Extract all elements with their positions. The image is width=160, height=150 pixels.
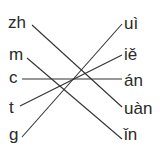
line-g-ui bbox=[22, 24, 122, 137]
left-label-zh: zh bbox=[8, 14, 26, 31]
left-label-t: t bbox=[9, 99, 14, 116]
right-label-in: ǐn bbox=[124, 126, 137, 143]
line-m-in bbox=[27, 58, 122, 139]
right-label-ui: uì bbox=[124, 15, 138, 32]
right-label-ie: iě bbox=[124, 46, 137, 63]
right-label-uan: uàn bbox=[124, 100, 152, 117]
line-t-ie bbox=[20, 55, 122, 106]
left-label-c: c bbox=[9, 69, 18, 86]
left-label-g: g bbox=[9, 126, 18, 143]
right-label-an: án bbox=[124, 72, 143, 89]
line-zh-uan bbox=[32, 25, 122, 107]
left-label-m: m bbox=[9, 46, 23, 63]
